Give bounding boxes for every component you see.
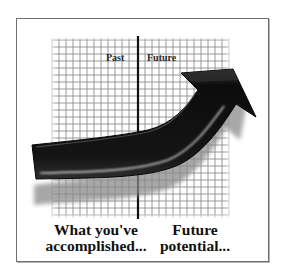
caption-line: Future (150, 222, 240, 238)
accomplished-caption: What you've accomplished... (40, 222, 152, 254)
caption-line: potential... (150, 238, 240, 254)
caption-line: What you've (40, 222, 152, 238)
future-label: Future (147, 53, 176, 63)
caption-line: accomplished... (40, 238, 152, 254)
past-label: Past (106, 53, 124, 63)
future-potential-caption: Future potential... (150, 222, 240, 254)
